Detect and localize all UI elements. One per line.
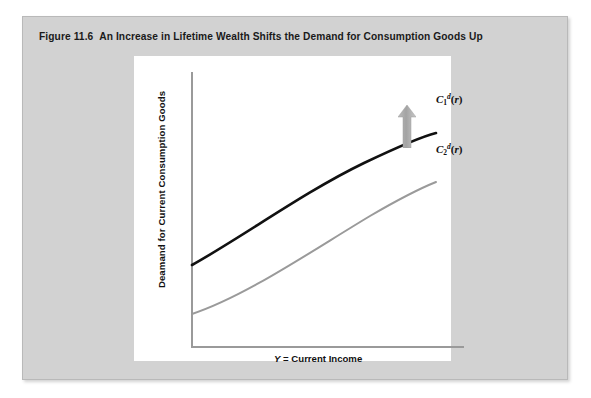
curve-label-c1-close-paren: ) — [459, 93, 463, 105]
curve-label-c1: C1d(r) — [436, 92, 462, 107]
curve-label-c2-close-paren: ) — [459, 143, 463, 155]
shift-arrow-icon — [398, 105, 416, 148]
figure-number: Figure 11.6 — [39, 31, 93, 42]
plot-area: Deamand for Current Consumption Goods Y … — [134, 56, 451, 361]
curve-c2 — [192, 182, 436, 314]
plot-panel: Deamand for Current Consumption Goods Y … — [134, 56, 451, 361]
figure-card: Figure 11.6 An Increase in Lifetime Weal… — [22, 16, 568, 380]
figure-title: An Increase in Lifetime Wealth Shifts th… — [99, 31, 483, 42]
curve-label-c2: C2d(r) — [436, 142, 462, 157]
curves-svg — [134, 56, 451, 361]
figure-caption: Figure 11.6 An Increase in Lifetime Weal… — [39, 31, 544, 42]
